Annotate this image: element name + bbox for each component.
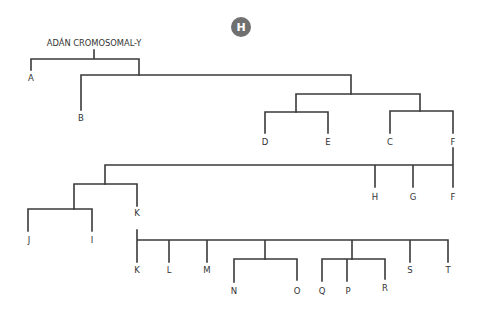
badge-letter: H <box>236 21 245 34</box>
node-t: T <box>444 265 451 275</box>
branch-b-group <box>81 75 351 110</box>
node-s: S <box>407 265 412 275</box>
node-b: B <box>78 113 84 123</box>
node-n: N <box>231 286 237 296</box>
node-a: A <box>28 73 34 83</box>
node-o: O <box>294 286 301 296</box>
node-h: H <box>372 192 378 202</box>
node-g: G <box>410 192 417 202</box>
node-i: I <box>91 235 94 245</box>
node-m: M <box>203 265 210 275</box>
node-j: J <box>27 235 31 245</box>
node-k: K <box>134 208 140 218</box>
phylogenetic-tree-diagram: H ADÁN CROMOSOMAL-Y A B D E C F H G F K … <box>0 0 478 310</box>
node-l: L <box>167 265 172 275</box>
root-title: ADÁN CROMOSOMAL-Y <box>47 37 142 48</box>
node-e: E <box>325 137 330 147</box>
branch-de <box>265 112 328 133</box>
branch-defc <box>296 94 420 112</box>
tree-upper: ADÁN CROMOSOMAL-Y A B D E C F <box>28 37 455 147</box>
branch-no <box>234 259 297 282</box>
branch-jik <box>74 184 137 209</box>
branch-ji <box>28 209 92 231</box>
tree-lower: K L M N O Q P R S T <box>134 230 451 296</box>
node-k2: K <box>134 265 140 275</box>
section-badge: H <box>231 17 251 37</box>
tree-middle: H G F K J I <box>27 148 456 245</box>
branch-cf <box>390 111 453 133</box>
branch-k-main <box>137 230 448 262</box>
node-q: Q <box>319 286 326 296</box>
node-d: D <box>262 137 269 147</box>
node-p: P <box>345 286 350 296</box>
node-r: R <box>382 283 388 293</box>
branch-qpr <box>322 259 385 281</box>
branch-root <box>31 50 139 75</box>
node-f2: F <box>451 192 456 202</box>
node-f: F <box>451 137 456 147</box>
node-c: C <box>387 137 393 147</box>
branch-f-main <box>105 148 453 187</box>
